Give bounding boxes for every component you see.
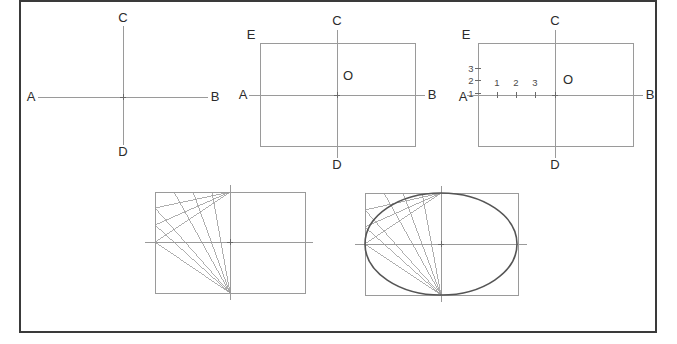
figure-step-1-axes: ABCD: [27, 10, 220, 159]
label-C: C: [332, 13, 341, 28]
center-mark-step-4-construction-rays: [227, 239, 233, 245]
ray-edge-to-bottom-3: [365, 244, 441, 295]
label-C: C: [118, 10, 127, 25]
ray-to-top-1: [365, 193, 441, 210]
label-B: B: [211, 89, 220, 104]
h-tick-label-2: 2: [513, 77, 518, 88]
label-C: C: [550, 13, 559, 28]
center-mark-step-2-rectangle: [334, 92, 340, 98]
label-A: A: [459, 89, 468, 104]
center-mark-step-5-ellipse: [438, 241, 444, 247]
label-O: O: [563, 72, 573, 87]
ray-to-top-3: [155, 192, 230, 242]
label-A: A: [239, 87, 248, 102]
ellipse-construction-diagram: ABCDABCDEO123123ABCDEO: [0, 0, 677, 344]
center-mark-step-3-divisions: [552, 92, 558, 98]
figure-step-5-ellipse: [355, 186, 527, 302]
ray-edge-to-bottom-1: [155, 208, 230, 293]
v-tick-label-3: 3: [468, 63, 473, 74]
label-B: B: [646, 87, 655, 102]
ray-edge-to-bottom-2: [155, 225, 230, 293]
ray-to-top-2: [155, 192, 230, 225]
drawing-canvas: ABCDABCDEO123123ABCDEO: [0, 0, 677, 344]
label-D: D: [332, 157, 341, 172]
figure-step-4-construction-rays: [145, 185, 313, 300]
label-A: A: [27, 89, 36, 104]
ray-to-top-1: [155, 192, 230, 208]
label-E: E: [247, 27, 256, 42]
ray-edge-to-bottom-2: [365, 227, 441, 295]
v-tick-label-2: 2: [468, 75, 473, 86]
label-E: E: [462, 27, 471, 42]
ray-edge-to-bottom-3: [155, 242, 230, 293]
ray-to-top-2: [365, 193, 441, 227]
h-tick-label-1: 1: [494, 77, 499, 88]
label-B: B: [428, 87, 437, 102]
center-mark-step-1-axes: [120, 94, 126, 100]
h-tick-label-3: 3: [532, 77, 537, 88]
label-D: D: [550, 157, 559, 172]
label-O: O: [343, 68, 353, 83]
label-D: D: [118, 144, 127, 159]
ray-to-top-3: [365, 193, 441, 244]
v-tick-label-1: 1: [468, 88, 473, 99]
figure-step-2-rectangle: ABCDEO: [239, 13, 437, 172]
ray-edge-to-bottom-1: [365, 210, 441, 295]
